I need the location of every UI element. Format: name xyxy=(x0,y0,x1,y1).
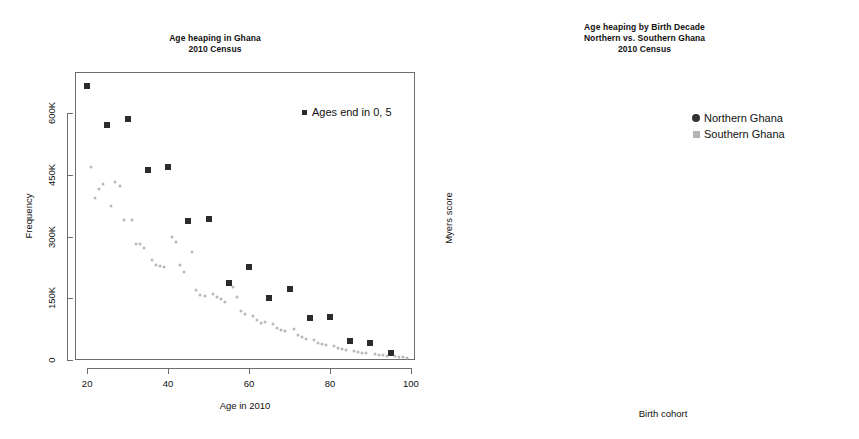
square-marker-icon xyxy=(688,131,704,138)
data-point-other xyxy=(324,344,327,347)
data-point-heaped xyxy=(246,264,252,270)
x-tick-label: 80 xyxy=(325,378,336,389)
y-tick-mark xyxy=(67,113,73,114)
data-point-other xyxy=(333,345,336,348)
data-point-other xyxy=(361,352,364,355)
data-point-other xyxy=(150,259,153,262)
data-point-other xyxy=(276,326,279,329)
data-point-other xyxy=(110,204,113,207)
x-tick-mark xyxy=(168,368,169,374)
x-tick-label: 100 xyxy=(403,378,419,389)
x-tick-mark xyxy=(330,368,331,374)
data-point-other xyxy=(397,355,400,358)
data-point-other xyxy=(235,296,238,299)
data-point-other xyxy=(244,312,247,315)
data-point-other xyxy=(154,263,157,266)
data-point-heaped xyxy=(327,314,333,320)
data-point-other xyxy=(280,329,283,332)
data-point-other xyxy=(357,351,360,354)
square-marker-icon xyxy=(296,110,312,115)
data-point-other xyxy=(292,328,295,331)
data-point-other xyxy=(256,318,259,321)
legend-item-heaped-ages: Ages end in 0, 5 xyxy=(296,104,392,120)
left-x-axis-label: Age in 2010 xyxy=(220,400,271,411)
y-tick-label: 450K xyxy=(46,164,57,186)
data-point-other xyxy=(365,352,368,355)
y-tick-mark xyxy=(67,360,73,361)
x-tick-label: 20 xyxy=(82,378,93,389)
data-point-other xyxy=(179,263,182,266)
data-point-heaped xyxy=(307,315,313,321)
data-point-other xyxy=(215,296,218,299)
data-point-other xyxy=(191,250,194,253)
data-point-heaped xyxy=(347,338,353,344)
data-point-other xyxy=(405,356,408,359)
data-point-other xyxy=(341,348,344,351)
x-tick-mark xyxy=(249,368,250,374)
left-chart-title: Age heaping in Ghana 2010 Census xyxy=(0,33,430,55)
right-legend: Northern Ghana Southern Ghana xyxy=(688,110,785,142)
left-legend: Ages end in 0, 5 xyxy=(296,104,392,120)
data-point-other xyxy=(353,349,356,352)
data-point-other xyxy=(98,188,101,191)
data-point-other xyxy=(142,247,145,250)
data-point-other xyxy=(130,219,133,222)
data-point-other xyxy=(199,293,202,296)
data-point-other xyxy=(102,182,105,185)
legend-item-southern-ghana: Southern Ghana xyxy=(688,126,785,142)
data-point-other xyxy=(260,321,263,324)
right-chart-title: Age heaping by Birth Decade Northern vs.… xyxy=(430,22,859,55)
circle-marker-icon xyxy=(688,114,704,122)
data-point-other xyxy=(393,355,396,358)
y-tick-label: 0 xyxy=(46,357,57,362)
y-tick-mark xyxy=(67,237,73,238)
data-point-other xyxy=(175,240,178,243)
legend-item-northern-ghana: Northern Ghana xyxy=(688,110,785,126)
data-point-heaped xyxy=(165,164,171,170)
y-tick-label: 150K xyxy=(46,287,57,309)
data-point-other xyxy=(122,219,125,222)
data-point-other xyxy=(385,354,388,357)
data-point-heaped xyxy=(266,295,272,301)
data-point-other xyxy=(203,295,206,298)
data-point-heaped xyxy=(104,122,110,128)
data-point-other xyxy=(114,181,117,184)
x-tick-label: 60 xyxy=(244,378,255,389)
data-point-heaped xyxy=(125,116,131,122)
y-tick-label: 600K xyxy=(46,102,57,124)
figure-root: Age heaping in Ghana 2010 Census 0150K30… xyxy=(0,0,859,439)
right-y-axis-label: Myers score xyxy=(443,192,454,244)
data-point-other xyxy=(252,314,255,317)
data-point-other xyxy=(239,309,242,312)
data-point-other xyxy=(118,184,121,187)
data-point-other xyxy=(377,353,380,356)
data-point-heaped xyxy=(206,216,212,222)
data-point-other xyxy=(159,265,162,268)
data-point-other xyxy=(138,242,141,245)
data-point-heaped xyxy=(185,218,191,224)
data-point-other xyxy=(90,166,93,169)
y-tick-mark xyxy=(67,298,73,299)
data-point-other xyxy=(300,336,303,339)
data-point-other xyxy=(312,339,315,342)
x-tick-mark xyxy=(87,368,88,374)
data-point-heaped xyxy=(145,167,151,173)
data-point-other xyxy=(134,242,137,245)
y-tick-label: 300K xyxy=(46,225,57,247)
data-point-heaped xyxy=(287,286,293,292)
data-point-other xyxy=(171,235,174,238)
data-point-other xyxy=(183,270,186,273)
right-x-axis-label: Birth cohort xyxy=(639,408,688,419)
data-point-other xyxy=(381,354,384,357)
right-chart-panel: Age heaping by Birth Decade Northern vs.… xyxy=(430,0,859,439)
data-point-other xyxy=(345,349,348,352)
data-point-other xyxy=(231,285,234,288)
data-point-other xyxy=(264,321,267,324)
data-point-heaped xyxy=(84,83,90,89)
x-tick-label: 40 xyxy=(163,378,174,389)
data-point-other xyxy=(401,356,404,359)
legend-label-southern-ghana: Southern Ghana xyxy=(704,128,785,140)
data-point-other xyxy=(272,322,275,325)
data-point-heaped xyxy=(367,340,373,346)
data-point-other xyxy=(163,266,166,269)
